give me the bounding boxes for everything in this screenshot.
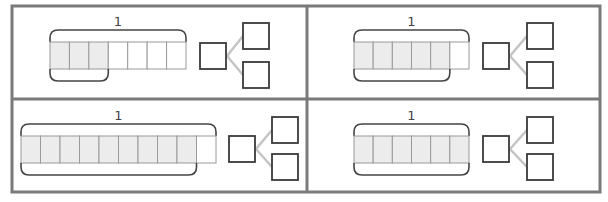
shaded-cell [21,136,41,163]
shaded-cell [80,136,100,163]
shaded-brace [50,69,108,81]
answer-box-whole[interactable] [200,43,226,69]
shaded-cell [177,136,197,163]
whole-brace [354,30,469,42]
shaded-brace [354,69,450,81]
bond-connector [510,130,527,149]
whole-label: 1 [114,14,122,29]
panel-bottom-right: 1 [354,108,553,180]
empty-cell [147,42,166,69]
shaded-cell [450,136,469,163]
shaded-cell [392,136,411,163]
shaded-cell [99,136,119,163]
shaded-cell [41,136,61,163]
answer-box-part-top[interactable] [527,23,553,49]
bond-connector [227,56,243,75]
shaded-cell [431,136,450,163]
shaded-cell [412,42,431,69]
shaded-cell [354,42,373,69]
answer-box-part-bottom[interactable] [527,62,553,88]
whole-label: 1 [407,14,415,29]
panel-top-right: 1 [354,14,553,88]
whole-brace [21,124,216,136]
shaded-brace [354,163,469,175]
answer-box-part-top[interactable] [272,117,298,143]
panel-bottom-left: 1 [21,108,298,180]
whole-label: 1 [114,108,122,123]
answer-box-whole[interactable] [483,136,509,162]
empty-cell [167,42,186,69]
bond-connector [227,36,243,56]
whole-brace [354,124,469,136]
answer-box-part-bottom[interactable] [243,62,269,88]
bond-connector [510,149,527,167]
bond-connector [256,130,272,149]
worksheet-frame [12,6,600,192]
empty-cell [108,42,127,69]
shaded-cell [373,42,392,69]
worksheet: 1111 [0,0,608,202]
bond-connector [510,36,527,56]
bond-connector [510,56,527,75]
shaded-cell [89,42,108,69]
shaded-cell [138,136,158,163]
empty-cell [450,42,469,69]
answer-box-part-top[interactable] [243,23,269,49]
shaded-cell [60,136,80,163]
shaded-brace [21,163,197,175]
answer-box-part-bottom[interactable] [272,154,298,180]
whole-label: 1 [407,108,415,123]
shaded-cell [392,42,411,69]
empty-cell [197,136,217,163]
bond-connector [256,149,272,167]
answer-box-part-bottom[interactable] [527,154,553,180]
shaded-cell [431,42,450,69]
shaded-cell [354,136,373,163]
empty-cell [128,42,147,69]
shaded-cell [412,136,431,163]
answer-box-part-top[interactable] [527,117,553,143]
whole-brace [50,30,186,42]
shaded-cell [50,42,69,69]
shaded-cell [158,136,178,163]
answer-box-whole[interactable] [483,43,509,69]
shaded-cell [69,42,88,69]
shaded-cell [119,136,139,163]
panels: 1111 [21,14,553,180]
answer-box-whole[interactable] [229,136,255,162]
shaded-cell [373,136,392,163]
panel-top-left: 1 [50,14,269,88]
